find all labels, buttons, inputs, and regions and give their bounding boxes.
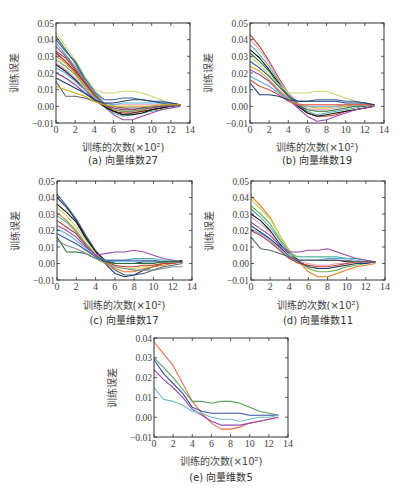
- x-tick-label: 8: [132, 281, 137, 292]
- series-line: [154, 388, 278, 422]
- x-tick-label: 14: [283, 438, 293, 449]
- y-tick-label: 0.03: [231, 52, 248, 62]
- series-line: [57, 234, 182, 262]
- caption-e: (e) 向量维数5: [121, 469, 321, 484]
- x-tick-label: 14: [379, 124, 389, 135]
- x-tick-label: 2: [74, 281, 79, 292]
- series-line: [154, 342, 278, 429]
- y-tick-label: 0.01: [37, 85, 54, 95]
- series-line: [57, 237, 182, 263]
- x-tick-label: 12: [264, 438, 274, 449]
- x-tick-label: 2: [171, 438, 176, 449]
- x-tick-label: 8: [325, 281, 330, 292]
- y-tick-label: 0.01: [232, 243, 249, 253]
- x-tick-label: 4: [93, 281, 98, 292]
- x-tick-label: 8: [228, 438, 233, 449]
- y-tick-label: 0.00: [37, 102, 54, 112]
- y-tick-label: 0.03: [135, 353, 152, 363]
- x-tick-label: 6: [112, 281, 117, 292]
- series-line: [250, 61, 374, 104]
- y-tick-label: 0.05: [37, 19, 54, 29]
- x-tick-label: 12: [361, 281, 371, 292]
- x-tick-label: 6: [305, 124, 310, 135]
- y-tick-label: 0.02: [231, 69, 248, 79]
- y-axis-label: 训练误差: [203, 211, 215, 251]
- y-tick-label: −0.01: [33, 276, 55, 286]
- y-tick-label: 0.04: [38, 193, 55, 203]
- x-tick-label: 10: [245, 438, 255, 449]
- x-tick-label: 4: [92, 124, 97, 135]
- x-tick-label: 0: [152, 438, 157, 449]
- y-tick-label: 0.02: [37, 69, 54, 79]
- series-line: [57, 216, 182, 262]
- x-axis-label-c: 训练的次数(×10²): [24, 297, 224, 312]
- x-tick-label: 6: [306, 281, 311, 292]
- y-axis-label: 训练误差: [202, 53, 214, 93]
- y-tick-label: 0.05: [232, 177, 249, 187]
- series-line: [57, 207, 182, 268]
- x-tick-label: 12: [168, 281, 178, 292]
- x-tick-label: 14: [185, 124, 195, 135]
- x-tick-label: 12: [360, 124, 370, 135]
- y-tick-label: −0.01: [32, 119, 54, 129]
- x-tick-label: 0: [248, 124, 253, 135]
- x-tick-label: 4: [286, 124, 291, 135]
- y-tick-label: 0.03: [37, 52, 54, 62]
- x-tick-label: 12: [166, 124, 176, 135]
- y-tick-label: −0.01: [226, 119, 248, 129]
- chart-panel-d: 02468101214−0.010.000.010.020.030.040.05…: [195, 160, 406, 330]
- y-axis-label: 训练误差: [106, 368, 118, 408]
- y-tick-label: 0.00: [135, 413, 152, 423]
- y-tick-label: 0.03: [232, 210, 249, 220]
- y-tick-label: 0.02: [232, 226, 249, 236]
- x-tick-label: 10: [148, 281, 158, 292]
- y-tick-label: −0.01: [227, 276, 249, 286]
- y-axis-label: 训练误差: [9, 211, 21, 251]
- y-tick-label: 0.05: [231, 19, 248, 29]
- x-tick-label: 10: [341, 124, 351, 135]
- y-tick-label: −0.01: [130, 433, 152, 443]
- chart-panel-b: 02468101214−0.010.000.010.020.030.040.05…: [195, 0, 406, 165]
- plot-frame: [154, 338, 288, 437]
- y-tick-label: 0.04: [135, 334, 152, 344]
- y-tick-label: 0.00: [231, 102, 248, 112]
- y-tick-label: 0.03: [38, 210, 55, 220]
- y-tick-label: 0.04: [232, 193, 249, 203]
- y-tick-label: 0.00: [38, 259, 55, 269]
- series-line: [56, 78, 180, 105]
- x-tick-label: 0: [55, 281, 60, 292]
- x-tick-label: 4: [287, 281, 292, 292]
- y-tick-label: 0.04: [231, 35, 248, 45]
- y-tick-label: 0.02: [135, 373, 152, 383]
- x-tick-label: 4: [190, 438, 195, 449]
- y-tick-label: 0.01: [135, 393, 152, 403]
- x-tick-label: 2: [73, 124, 78, 135]
- x-tick-label: 10: [147, 124, 157, 135]
- y-tick-label: 0.01: [38, 243, 55, 253]
- y-tick-label: 0.02: [38, 226, 55, 236]
- x-axis-label-e: 训练的次数(×10²): [121, 453, 321, 468]
- x-tick-label: 8: [324, 124, 329, 135]
- y-tick-label: 0.04: [37, 35, 54, 45]
- x-tick-label: 8: [130, 124, 135, 135]
- y-axis-label: 训练误差: [8, 53, 20, 93]
- chart-panel-c: 02468101214−0.010.000.010.020.030.040.05…: [0, 160, 203, 330]
- y-tick-label: 0.01: [231, 85, 248, 95]
- x-tick-label: 10: [342, 281, 352, 292]
- x-tick-label: 6: [209, 438, 214, 449]
- chart-panel-e: 02468101214−0.010.000.010.020.030.04训练误差…: [100, 320, 310, 491]
- x-tick-label: 14: [380, 281, 390, 292]
- x-tick-label: 0: [54, 124, 59, 135]
- x-tick-label: 0: [249, 281, 254, 292]
- y-tick-label: 0.00: [232, 259, 249, 269]
- chart-panel-a: 02468101214−0.010.000.010.020.030.040.05…: [0, 0, 203, 165]
- x-tick-label: 6: [111, 124, 116, 135]
- x-tick-label: 2: [267, 124, 272, 135]
- x-axis-label-d: 训练的次数(×10²): [218, 297, 406, 312]
- y-tick-label: 0.05: [38, 177, 55, 187]
- x-tick-label: 2: [268, 281, 273, 292]
